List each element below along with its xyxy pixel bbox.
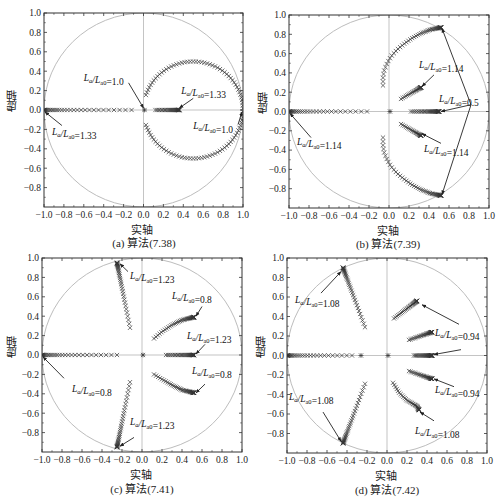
x-tick-label: 0.6: [443, 211, 455, 221]
panel-a: −1.0−0.8−0.6−0.4−0.20.00.20.40.60.81.0−0…: [24, 8, 249, 220]
x-tick-label: −1.0: [33, 455, 50, 465]
panel-c-ylabel: 虚轴: [4, 336, 20, 358]
panel-a-caption: (a) 算法(7.38): [24, 234, 264, 250]
x-tick-label: 0.4: [421, 456, 433, 466]
annotation-label: La/La0=1.23: [129, 271, 175, 285]
x-tick-label: −0.6: [320, 211, 337, 221]
x-tick-label: −0.4: [95, 210, 112, 220]
panel-b: −1.0−0.8−0.6−0.4−0.20.00.20.40.60.81.0−0…: [269, 10, 495, 221]
x-tick-label: −0.6: [318, 456, 335, 466]
annotation-arrow: [422, 134, 441, 144]
y-tick-label: −0.4: [267, 390, 284, 400]
x-tick-label: −0.2: [358, 456, 375, 466]
y-tick-label: 0.2: [274, 88, 286, 98]
y-tick-label: −0.8: [22, 428, 39, 438]
y-tick-label: 0.0: [27, 350, 39, 360]
y-tick-label: 0.6: [274, 49, 286, 59]
annotation-arrow: [196, 384, 205, 393]
x-tick-label: 1.0: [483, 211, 495, 221]
panel-d-ylabel: 虚轴: [253, 336, 269, 358]
x-tick-label: 0.0: [138, 210, 150, 220]
annotation-arrow: [45, 112, 62, 126]
annotation-label: La/La0=1.23: [186, 331, 232, 345]
x-tick-label: 0.0: [383, 211, 395, 221]
y-tick-label: 0.6: [27, 292, 39, 302]
y-tick-label: −0.8: [269, 184, 286, 194]
x-tick-label: −1.0: [35, 210, 52, 220]
x-tick-label: 0.2: [401, 456, 413, 466]
annotation-arrow: [420, 412, 434, 421]
x-tick-label: 0.0: [136, 455, 148, 465]
x-tick-label: 1.0: [237, 210, 249, 220]
y-tick-label: −0.6: [269, 165, 286, 175]
y-tick-label: −0.2: [24, 125, 41, 135]
y-tick-label: 0.2: [27, 331, 39, 341]
y-tick-label: −0.8: [24, 183, 41, 193]
y-tick-label: 0.8: [274, 30, 286, 40]
annotation-arrow: [196, 307, 202, 317]
x-tick-label: 0.8: [217, 210, 229, 220]
y-tick-label: 0.6: [29, 47, 41, 57]
x-tick-label: −0.2: [360, 211, 377, 221]
x-tick-label: 0.4: [176, 455, 188, 465]
panel-b-caption: (b) 算法(7.39): [268, 235, 503, 251]
annotation-label: La/La0=1.33: [180, 86, 226, 100]
y-tick-label: 0.0: [29, 105, 41, 115]
y-tick-label: 0.4: [272, 312, 284, 322]
x-tick-label: −1.0: [278, 456, 295, 466]
y-tick-label: 1.0: [27, 253, 39, 263]
y-tick-label: 0.4: [274, 68, 286, 78]
annotation-arrow: [43, 357, 64, 378]
panel-c-caption: (c) 算法(7.41): [22, 480, 262, 496]
annotation-arrow: [434, 350, 461, 355]
x-tick-label: −0.6: [73, 455, 90, 465]
x-tick-label: −0.2: [115, 210, 132, 220]
y-tick-label: −0.8: [267, 429, 284, 439]
y-tick-label: −0.4: [269, 145, 286, 155]
annotation-label: La/La0=1.14: [296, 137, 342, 151]
x-tick-label: 1.0: [481, 456, 493, 466]
x-tick-label: 1.0: [236, 455, 248, 465]
x-tick-label: 0.4: [177, 210, 189, 220]
annotation-label: La/La0=0.8: [171, 291, 212, 305]
x-tick-label: 0.6: [196, 455, 208, 465]
y-tick-label: 0.8: [29, 28, 41, 38]
annotation-label: La/La0=0.8: [191, 366, 232, 380]
panel-d: −1.0−0.8−0.6−0.4−0.20.00.20.40.60.81.0−0…: [267, 253, 493, 466]
annotation-arrow: [196, 344, 205, 354]
y-tick-label: 0.4: [27, 312, 39, 322]
annotation-label: La/La0=1.33: [51, 127, 97, 141]
panel-a-ylabel: 虚轴: [4, 90, 20, 112]
y-tick-label: 0.2: [29, 86, 41, 96]
x-tick-label: 0.8: [463, 211, 475, 221]
annotation-label: La/La0=1.23: [129, 417, 175, 431]
y-tick-label: −0.6: [22, 409, 39, 419]
x-tick-label: 0.2: [157, 210, 169, 220]
x-tick-label: −0.4: [340, 211, 357, 221]
annotation-label: La/La0=1.0: [192, 121, 233, 135]
y-tick-label: 0.0: [272, 351, 284, 361]
x-tick-label: 0.4: [423, 211, 435, 221]
x-tick-label: −0.8: [300, 211, 317, 221]
y-tick-label: 1.0: [272, 253, 284, 263]
annotation-label: La/La0=1.08: [414, 426, 460, 440]
x-tick-label: −0.6: [75, 210, 92, 220]
x-tick-label: 0.8: [216, 455, 228, 465]
annotation-label: La/La0=0.8: [71, 384, 112, 398]
y-tick-label: 0.6: [272, 292, 284, 302]
panel-c: −1.0−0.8−0.6−0.4−0.20.00.20.40.60.81.0−0…: [22, 253, 248, 465]
x-tick-label: −0.4: [338, 456, 355, 466]
x-tick-label: 0.8: [461, 456, 473, 466]
y-tick-label: −0.4: [22, 389, 39, 399]
x-tick-label: 0.6: [197, 210, 209, 220]
y-tick-label: 0.0: [274, 107, 286, 117]
annotation-arrow: [179, 98, 193, 108]
y-tick-label: −0.6: [267, 409, 284, 419]
x-tick-label: 0.6: [441, 456, 453, 466]
x-tick-label: 0.0: [381, 456, 393, 466]
annotation-arrow: [422, 305, 459, 325]
annotation-arrow: [120, 437, 134, 446]
y-tick-label: −0.2: [22, 370, 39, 380]
y-tick-label: 0.8: [272, 273, 284, 283]
x-tick-label: 0.2: [156, 455, 168, 465]
